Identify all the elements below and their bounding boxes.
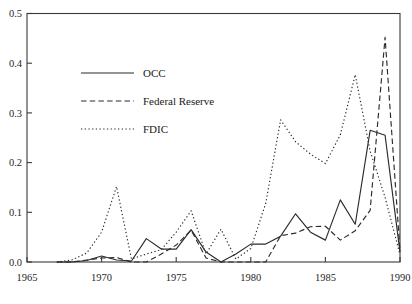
chart-container: 0.00.10.20.30.40.5 196519701975198019851…	[0, 0, 412, 304]
x-tick-label: 1990	[390, 272, 411, 283]
data-series-group	[57, 37, 400, 262]
legend-label-fdic: FDIC	[143, 123, 168, 135]
x-axis-ticks: 196519701975198019851990	[17, 257, 411, 283]
y-tick-label: 0.5	[9, 8, 22, 19]
y-axis-ticks: 0.00.10.20.30.40.5	[9, 8, 32, 268]
x-tick-label: 1975	[166, 272, 187, 283]
y-tick-label: 0.4	[9, 58, 23, 69]
y-tick-label: 0.2	[9, 157, 22, 168]
series-line-occ	[57, 130, 400, 262]
x-tick-label: 1970	[91, 272, 112, 283]
legend-label-federal-reserve: Federal Reserve	[143, 95, 214, 107]
legend-label-occ: OCC	[143, 67, 166, 79]
line-chart: 0.00.10.20.30.40.5 196519701975198019851…	[0, 0, 412, 304]
series-line-federal-reserve	[57, 37, 400, 262]
series-line-fdic	[57, 75, 400, 262]
x-tick-label: 1985	[315, 272, 336, 283]
x-tick-label: 1980	[240, 272, 261, 283]
chart-legend: OCCFederal ReserveFDIC	[81, 67, 214, 135]
x-tick-label: 1965	[17, 272, 38, 283]
y-tick-label: 0.0	[9, 257, 22, 268]
y-tick-label: 0.1	[9, 207, 22, 218]
plot-frame	[27, 14, 400, 263]
y-tick-label: 0.3	[9, 108, 22, 119]
